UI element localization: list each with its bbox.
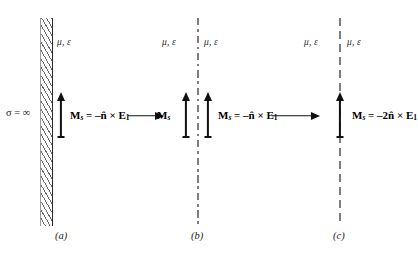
equation-b-equals: =	[234, 109, 240, 121]
panel-caption-b: (b)	[191, 231, 203, 242]
panel-caption-c: (c)	[333, 231, 345, 242]
arrow-shaft	[185, 98, 187, 138]
medium-label-b-right: μ, ε	[204, 38, 218, 48]
equation-a-equals: =	[86, 109, 92, 121]
arrow-shaft	[207, 98, 209, 138]
medium-label-a-right: μ, ε	[57, 38, 71, 48]
conductor-wall-hatching	[40, 18, 53, 226]
equation-c-equals: =	[368, 109, 374, 121]
equation-b: Ms = –n̂ × E1	[218, 110, 278, 122]
panel-c: μ, ε μ, ε Ms = –2n̂ × E1 (c)	[280, 0, 418, 259]
arrow-tail-bar	[58, 136, 65, 138]
equation-a-symbol-M: M	[70, 109, 80, 121]
magnetic-current-arrow-b-right	[203, 92, 213, 138]
arrow-tail-bar	[205, 136, 212, 138]
equation-a: Ms = –n̂ × E1	[70, 110, 130, 122]
medium-label-c-right: μ, ε	[347, 38, 361, 48]
equation-b-symbol-M: M	[218, 109, 228, 121]
equation-c: Ms = –2n̂ × E1	[352, 110, 417, 122]
equation-a-cross: ×	[109, 109, 115, 121]
equation-c-symbol-M: M	[352, 109, 362, 121]
equation-a-symbol-E: E	[119, 109, 126, 121]
equation-b-n-hat: n̂	[249, 109, 255, 121]
equation-b-subscript-s: s	[228, 113, 231, 122]
panel-caption-a: (a)	[55, 231, 67, 242]
equation-c-n-hat: n̂	[388, 109, 394, 121]
equation-b-cross: ×	[257, 109, 263, 121]
equation-c-subscript-1: 1	[413, 113, 417, 122]
magnetic-current-arrow-a	[56, 92, 66, 138]
panel-b: μ, ε μ, ε Ms Ms = –n̂ × E1	[140, 0, 280, 259]
equation-a-subscript-s: s	[80, 113, 83, 122]
equation-b-left-symbol-M: M	[157, 109, 167, 121]
magnetic-current-arrow-c	[335, 92, 345, 138]
equation-b-left: Ms	[157, 110, 170, 122]
equation-c-subscript-s: s	[362, 113, 365, 122]
equation-b-left-subscript-s: s	[167, 113, 170, 122]
equation-a-n-hat: n̂	[101, 109, 107, 121]
medium-label-b-left: μ, ε	[162, 38, 176, 48]
arrow-tail-bar	[183, 136, 190, 138]
interface-line-b	[197, 18, 199, 226]
magnetic-current-arrow-b-left	[181, 92, 191, 138]
arrow-shaft	[339, 98, 341, 138]
arrow-shaft	[60, 98, 62, 138]
panel-a: σ = ∞ μ, ε Ms = –n̂ × E1 (a)	[0, 0, 140, 259]
arrow-tail-bar	[337, 136, 344, 138]
conductivity-label-a: σ = ∞	[6, 108, 30, 119]
wall-left-edge	[40, 18, 41, 226]
wall-right-edge	[52, 18, 53, 226]
medium-label-c-left: μ, ε	[304, 38, 318, 48]
equation-c-cross: ×	[397, 109, 403, 121]
figure-canvas: σ = ∞ μ, ε Ms = –n̂ × E1 (a) μ, ε	[0, 0, 418, 259]
